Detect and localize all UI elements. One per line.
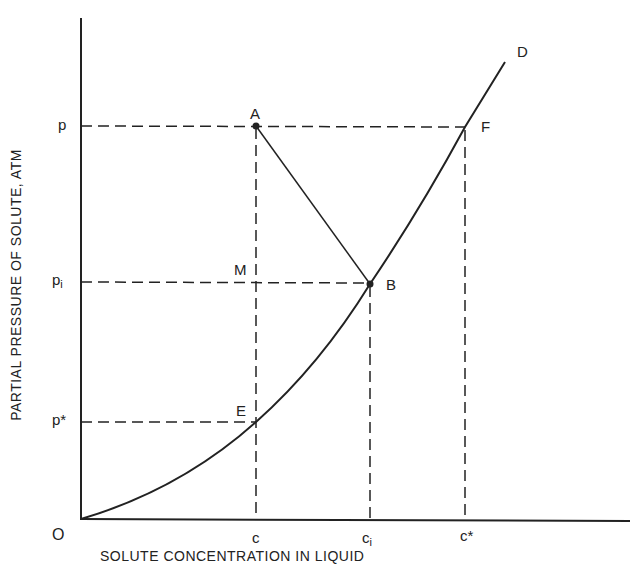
- equilibrium-curve: [81, 62, 505, 519]
- x-tick-cstar: c*: [460, 528, 473, 543]
- p-dashed-line: [81, 126, 465, 127]
- point-m-label: M: [234, 262, 247, 277]
- x-tick-ci: ci: [362, 530, 372, 548]
- point-a-marker: [253, 123, 260, 130]
- point-f-label: F: [481, 119, 490, 134]
- origin-label: O: [52, 527, 64, 543]
- x-axis: [80, 519, 630, 521]
- x-tick-ci-base: c: [362, 529, 370, 546]
- point-e-label: E: [236, 403, 246, 418]
- point-b-marker: [367, 281, 374, 288]
- y-axis-label: PARTIAL PRESSURE OF SOLUTE, ATM: [8, 149, 24, 421]
- y-tick-p: p: [58, 117, 66, 132]
- pi-dashed-line: [81, 282, 370, 283]
- y-tick-pstar: p*: [52, 412, 66, 427]
- point-a-label: A: [250, 106, 260, 121]
- y-tick-pi-sub: i: [60, 278, 62, 290]
- point-d-label: D: [517, 44, 528, 59]
- point-b-label: B: [386, 277, 396, 292]
- x-tick-c: c: [252, 530, 260, 545]
- x-axis-label: SOLUTE CONCENTRATION IN LIQUID: [100, 548, 364, 564]
- x-tick-ci-sub: i: [370, 536, 372, 548]
- tie-line-ab: [256, 126, 370, 284]
- y-tick-pi: pi: [52, 272, 63, 290]
